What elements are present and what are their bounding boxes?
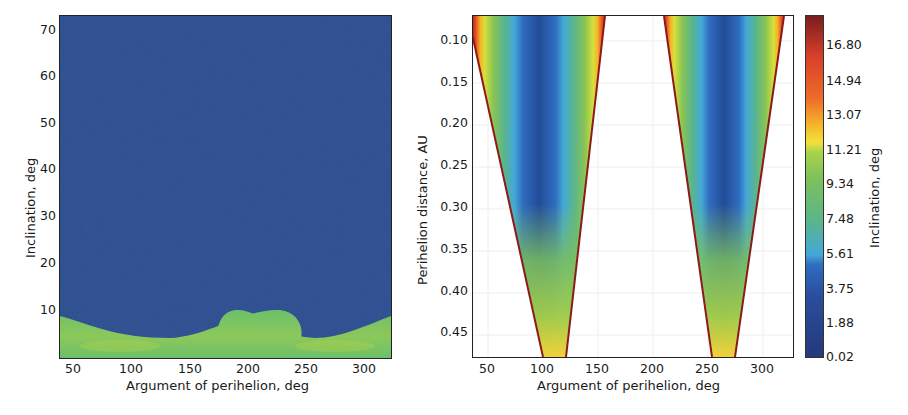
left-xtick-150: 150 [170,363,210,376]
colorbar [805,15,824,358]
colorbar-tick-5.61: 5.61 [826,248,854,261]
left-ytick-60: 60 [22,70,56,83]
colorbar-tick-1.88: 1.88 [826,317,854,330]
right-ytick-0.40: 0.40 [434,285,468,298]
right-xtick-100: 100 [522,363,562,376]
left-ytick-70: 70 [22,24,56,37]
right-heatmap [473,16,793,357]
right-y-axis-label: Perihelion distance, AU [416,135,429,285]
colorbar-tick-16.80: 16.80 [826,39,862,52]
right-ytick-0.10: 0.10 [434,34,468,47]
colorbar-tick-7.48: 7.48 [826,213,854,226]
colorbar-tick-3.75: 3.75 [826,283,854,296]
colorbar-tick-9.34: 9.34 [826,178,854,191]
left-y-axis-label: Inclination, deg [24,158,37,258]
left-x-axis-label: Argument of perihelion, deg [126,379,309,392]
left-xtick-50: 50 [53,363,93,376]
right-ytick-0.45: 0.45 [434,326,468,339]
right-ytick-0.15: 0.15 [434,76,468,89]
left-ytick-50: 50 [22,117,56,130]
left-xtick-200: 200 [228,363,268,376]
right-ytick-0.20: 0.20 [434,117,468,130]
colorbar-tick-14.94: 14.94 [826,75,862,88]
colorbar-tick-0.02: 0.02 [826,351,854,364]
right-xtick-200: 200 [632,363,672,376]
left-xtick-300: 300 [344,363,384,376]
colorbar-tick-13.07: 13.07 [826,109,862,122]
right-xtick-50: 50 [467,363,507,376]
right-ytick-0.25: 0.25 [434,159,468,172]
right-xtick-300: 300 [742,363,782,376]
right-ytick-0.35: 0.35 [434,243,468,256]
left-xtick-250: 250 [286,363,326,376]
left-xtick-100: 100 [111,363,151,376]
left-ytick-10: 10 [22,304,56,317]
right-x-axis-label: Argument of perihelion, deg [537,379,720,392]
colorbar-label: Inclination, deg [868,148,881,248]
right-plot-area [472,15,794,358]
left-plot-area [59,15,392,359]
left-ytick-20: 20 [22,257,56,270]
right-xtick-250: 250 [687,363,727,376]
right-xtick-150: 150 [577,363,617,376]
left-heatmap [60,16,391,358]
right-ytick-0.30: 0.30 [434,201,468,214]
colorbar-tick-11.21: 11.21 [826,144,862,157]
